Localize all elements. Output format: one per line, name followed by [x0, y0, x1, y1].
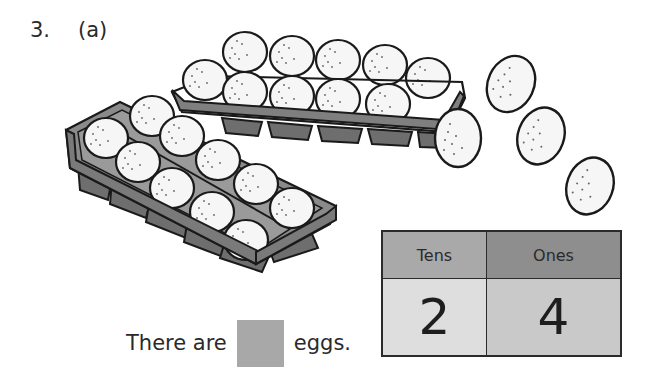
answer-sentence: There are eggs.: [126, 318, 351, 368]
loose-eggs: [435, 48, 622, 221]
answer-box[interactable]: [237, 320, 284, 367]
ones-header: Ones: [487, 232, 620, 279]
sentence-suffix: eggs.: [294, 331, 351, 355]
back-egg-tray: [172, 32, 465, 148]
place-value-table: Tens Ones 2 4: [381, 230, 622, 357]
tens-value: 2: [383, 279, 487, 355]
front-egg-tray: [66, 96, 336, 272]
ones-value: 4: [487, 279, 620, 355]
sentence-prefix: There are: [126, 331, 227, 355]
tens-header: Tens: [383, 232, 487, 279]
